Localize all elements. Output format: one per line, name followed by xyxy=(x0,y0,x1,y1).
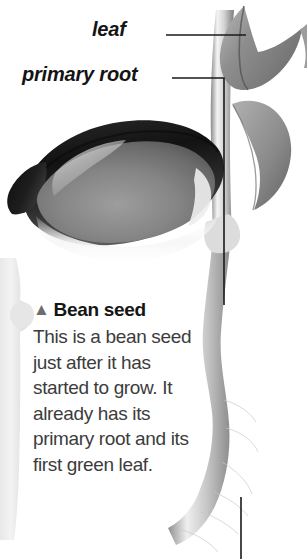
caption-heading-text: Bean seed xyxy=(54,299,146,320)
caption-block: ▲Bean seed This is a bean seed just afte… xyxy=(33,299,203,477)
bean-seed-shape xyxy=(7,120,224,261)
stem-shape xyxy=(204,10,240,253)
leader-line-primary-root xyxy=(172,78,224,305)
caption-heading: ▲Bean seed xyxy=(33,299,203,322)
leader-lines xyxy=(166,35,246,559)
illustration-page: leaf primary root ▲Bean seed This is a b… xyxy=(0,0,307,559)
callout-label-leaf: leaf xyxy=(92,18,126,41)
up-triangle-marker-icon: ▲ xyxy=(33,300,50,319)
left-edge-root xyxy=(0,258,34,540)
upper-leaf-shape xyxy=(220,6,307,90)
caption-body-text: This is a bean seed just after it has st… xyxy=(33,324,203,477)
lower-leaf-shape xyxy=(232,101,291,210)
callout-label-primary-root: primary root xyxy=(22,63,137,86)
